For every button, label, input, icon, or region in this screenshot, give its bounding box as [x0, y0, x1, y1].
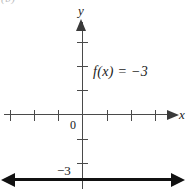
- constant-function-line: [13, 178, 173, 181]
- part-label: (b): [1, 0, 15, 3]
- x-axis-tick: [131, 110, 132, 121]
- y-axis-tick: [77, 163, 88, 164]
- function-equation-label: f(x) = −3: [93, 64, 148, 80]
- y-axis-tick: [77, 66, 88, 67]
- x-axis-tick: [34, 110, 35, 121]
- x-axis-arrowhead-icon: [167, 110, 179, 120]
- y-axis-tick: [77, 42, 88, 43]
- y-intercept-label: −3: [57, 163, 71, 179]
- y-axis-line: [82, 22, 83, 189]
- origin-label: 0: [70, 118, 76, 133]
- x-axis-label: x: [179, 107, 185, 123]
- y-axis-label: y: [78, 3, 84, 19]
- graph-left-arrowhead-icon: [1, 173, 15, 187]
- x-axis-line: [4, 114, 170, 115]
- x-axis-tick: [10, 110, 11, 121]
- x-axis-tick: [107, 110, 108, 121]
- x-axis-tick: [58, 110, 59, 121]
- y-axis-tick: [77, 139, 88, 140]
- constant-function-figure: (b) x y 0 f(x) = −3 −3: [0, 0, 189, 191]
- graph-right-arrowhead-icon: [171, 173, 185, 187]
- y-axis-arrowhead-icon: [76, 19, 86, 31]
- y-axis-tick: [77, 90, 88, 91]
- x-axis-tick: [155, 110, 156, 121]
